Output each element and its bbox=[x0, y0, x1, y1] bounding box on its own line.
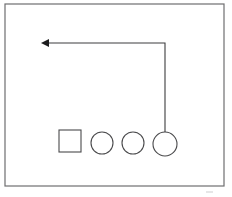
shape-square[interactable] bbox=[59, 130, 81, 152]
shape-circle-1[interactable] bbox=[91, 132, 113, 154]
enclosing-border bbox=[5, 4, 224, 186]
arrow-left-icon bbox=[41, 39, 49, 47]
shape-circle-2[interactable] bbox=[122, 132, 144, 154]
diagram-canvas bbox=[0, 0, 232, 197]
diagram-svg bbox=[0, 0, 232, 197]
shape-circle-3[interactable] bbox=[153, 132, 177, 156]
elbow-arrow-line[interactable] bbox=[48, 43, 165, 132]
